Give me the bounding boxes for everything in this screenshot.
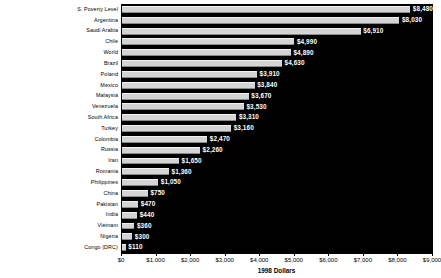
bar-value-label: $440	[140, 212, 155, 218]
bar-value-label: $8,480	[413, 6, 433, 12]
bar-value-label: $4,890	[293, 50, 313, 56]
x-tick-label: $0	[118, 257, 125, 263]
bar-value-label: $2,470	[210, 136, 230, 142]
category-label: Philippines	[0, 177, 121, 188]
bar-row: $2,260	[122, 145, 433, 156]
category-label: Russia	[0, 145, 121, 156]
bar	[122, 168, 169, 175]
category-label: Brazil	[0, 58, 121, 69]
x-tick-label: $2,000	[181, 257, 199, 263]
bar-row: $8,030	[122, 15, 433, 26]
category-label: South Africa	[0, 112, 121, 123]
x-tick	[328, 253, 329, 256]
category-label: Romania	[0, 166, 121, 177]
x-tick-label: $4,000	[250, 257, 268, 263]
x-tick-label: $3,000	[215, 257, 233, 263]
category-label: Iran	[0, 156, 121, 167]
bar-row: $110	[122, 242, 433, 253]
bar-row: $3,910	[122, 69, 433, 80]
bar-value-label: $110	[128, 244, 142, 250]
x-tick	[294, 253, 295, 256]
x-tick	[121, 253, 122, 256]
bar	[122, 244, 126, 251]
bar-row: $3,840	[122, 80, 433, 91]
bar	[122, 223, 134, 230]
bar-row: $360	[122, 221, 433, 232]
bar-value-label: $1,360	[171, 169, 191, 175]
bar	[122, 136, 207, 143]
bar	[122, 179, 158, 186]
bar	[122, 158, 179, 165]
x-axis-tick-labels: $0$1,000$2,000$3,000$4,000$5,000$6,000$7…	[121, 257, 432, 267]
bar	[122, 212, 137, 219]
bar	[122, 190, 148, 197]
category-label: Nigeria	[0, 231, 121, 242]
bar-value-label: $1,050	[161, 179, 181, 185]
bar-row: $6,910	[122, 26, 433, 37]
bar-value-label: $750	[150, 190, 165, 196]
bar-row: $3,310	[122, 112, 433, 123]
bar-row: $4,890	[122, 47, 433, 58]
bar	[122, 38, 294, 45]
category-label: China	[0, 188, 121, 199]
bar	[122, 114, 236, 121]
bar	[122, 49, 291, 56]
bar	[122, 71, 257, 78]
bar-row: $1,360	[122, 166, 433, 177]
category-label: S. Poverty Level	[0, 4, 121, 15]
bar-row: $3,530	[122, 101, 433, 112]
category-label: Mexico	[0, 80, 121, 91]
bar-value-label: $3,840	[257, 82, 277, 88]
category-label: India	[0, 210, 121, 221]
bar	[122, 125, 231, 132]
bar	[122, 93, 249, 100]
category-label: Venezuela	[0, 101, 121, 112]
bar-row: $440	[122, 210, 433, 221]
x-tick-label: $7,000	[354, 257, 372, 263]
x-tick-label: $5,000	[285, 257, 303, 263]
category-label: Argentina	[0, 15, 121, 26]
bar-row: $4,990	[122, 36, 433, 47]
x-tick-label: $6,000	[319, 257, 337, 263]
bar-row: $750	[122, 188, 433, 199]
bar-value-label: $3,310	[239, 114, 259, 120]
bar-value-label: $6,910	[363, 28, 383, 34]
bar-row: $3,670	[122, 91, 433, 102]
bar-row: $300	[122, 231, 433, 242]
bar	[122, 147, 200, 154]
bar-value-label: $2,260	[203, 147, 223, 153]
category-label: Turkey	[0, 123, 121, 134]
x-tick-label: $9,000	[423, 257, 441, 263]
category-label: Vietnam	[0, 221, 121, 232]
bar-value-label: $470	[141, 201, 156, 207]
x-tick	[432, 253, 433, 256]
bar-row: $3,160	[122, 123, 433, 134]
x-tick	[363, 253, 364, 256]
bar	[122, 17, 399, 24]
x-tick	[259, 253, 260, 256]
bar-value-label: $8,030	[402, 17, 422, 23]
category-label: World	[0, 47, 121, 58]
plot-area: $8,480$8,030$6,910$4,990$4,890$4,630$3,9…	[121, 4, 433, 253]
bar-row: $8,480	[122, 4, 433, 15]
category-label: Poland	[0, 69, 121, 80]
x-axis-title: 1998 Dollars	[121, 268, 432, 274]
bar-row: $470	[122, 199, 433, 210]
bar-value-label: $4,630	[284, 60, 304, 66]
bar	[122, 201, 138, 208]
x-tick	[397, 253, 398, 256]
bar-value-label: $4,990	[297, 39, 317, 45]
bar	[122, 82, 255, 89]
bar	[122, 60, 282, 67]
category-label: Chile	[0, 36, 121, 47]
category-label: Congo (DRC)	[0, 242, 121, 253]
x-tick-label: $8,000	[388, 257, 406, 263]
bar-row: $4,630	[122, 58, 433, 69]
bar-value-label: $360	[137, 223, 152, 229]
x-tick	[225, 253, 226, 256]
bar-row: $1,050	[122, 177, 433, 188]
bar-value-label: $300	[135, 234, 150, 240]
category-label: Pakistan	[0, 199, 121, 210]
x-tick	[156, 253, 157, 256]
bar-value-label: $1,650	[182, 158, 202, 164]
